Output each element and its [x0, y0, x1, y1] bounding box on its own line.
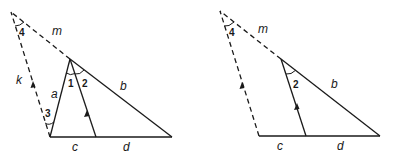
angle-4-arc	[15, 22, 24, 26]
angle-3-arc	[45, 122, 54, 124]
diagram-canvas: 4 m k a 1 2 b 3 c d 4 m 2 b c d	[0, 0, 401, 159]
angle-2-arc	[286, 70, 296, 74]
segment-d-label: d	[123, 140, 130, 154]
right-figure: 4 m 2 b c d	[220, 11, 380, 153]
side-b	[70, 59, 172, 137]
angle-4-label: 4	[229, 27, 235, 38]
angle-1-arc	[67, 73, 76, 75]
angle-2-label: 2	[82, 78, 88, 89]
side-b-label: b	[331, 77, 338, 91]
line-k-label: k	[16, 73, 23, 87]
side-a-label: a	[51, 87, 58, 101]
segment-c-label: c	[72, 140, 78, 154]
angle-3-label: 3	[45, 108, 51, 119]
line-m-label: m	[258, 22, 268, 36]
angle-bisector	[281, 59, 306, 136]
angle-2-arc	[75, 70, 84, 74]
left-figure: 4 m k a 1 2 b 3 c d	[11, 12, 172, 154]
line-m-label: m	[52, 24, 62, 38]
angle-1-label: 1	[68, 78, 74, 89]
angle-4-label: 4	[19, 27, 25, 38]
segment-d-label: d	[337, 139, 344, 153]
angle-4-arc	[224, 22, 234, 26]
segment-c-label: c	[277, 139, 283, 153]
line-k-dashed	[220, 11, 259, 136]
angle-2-label: 2	[293, 79, 299, 90]
parallel-arrow-icon	[31, 81, 36, 88]
side-b-label: b	[120, 79, 127, 93]
parallel-arrow-icon	[294, 103, 300, 110]
